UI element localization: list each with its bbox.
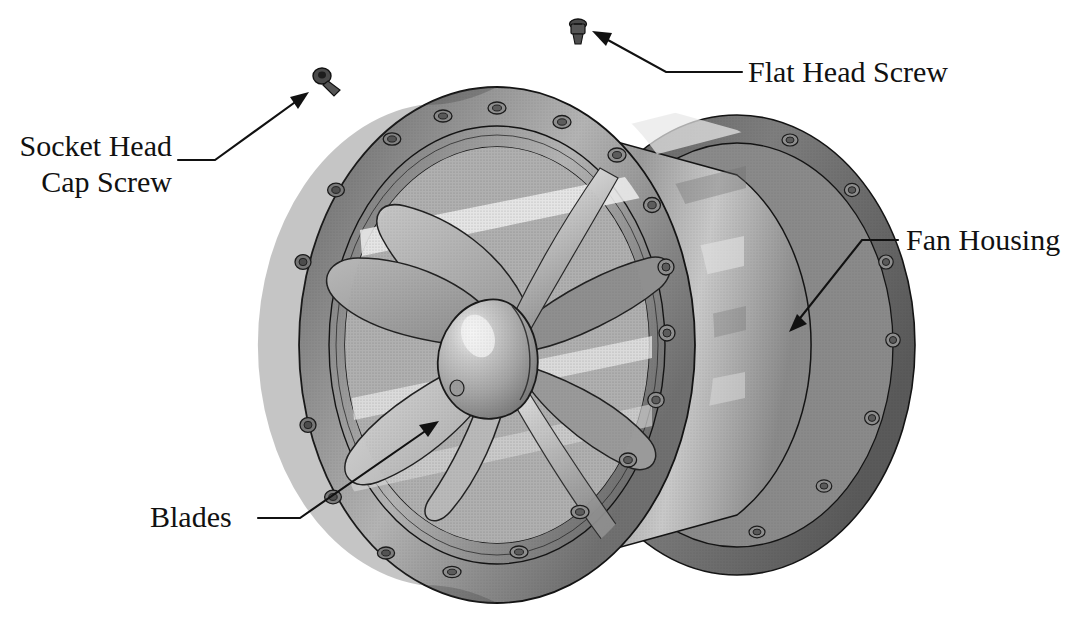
bolt-hole [844, 183, 859, 196]
bolt-hole [648, 392, 664, 407]
bolt-hole [488, 102, 506, 114]
bolt-hole [443, 566, 461, 577]
callout-blades-line-1: Blades [150, 500, 232, 534]
flat-head-screw-body [571, 24, 585, 34]
bolt-hole [295, 255, 311, 270]
bolt-hole [608, 148, 626, 162]
arrowhead-socket-head-cap-screw [290, 92, 309, 109]
bolt-hole [658, 259, 674, 275]
bolt-hole [377, 547, 394, 559]
bolt-hole [571, 505, 589, 518]
socket-head-cap-screw-hex-socket [318, 72, 326, 79]
fan-assembly-illustration [0, 0, 1076, 644]
bolt-hole [434, 110, 452, 122]
callout-socket-head-cap-screw: Socket Head Cap Screw [0, 128, 172, 200]
callout-flat-head-screw: Flat Head Screw [748, 55, 948, 89]
callout-flat-head-screw-line-1: Flat Head Screw [748, 55, 948, 89]
bolt-hole [865, 411, 880, 425]
arrowhead-flat-head-screw [592, 31, 612, 46]
leader-flat-head-screw [597, 34, 742, 72]
bolt-hole [328, 183, 345, 197]
bolt-hole [383, 133, 401, 145]
callout-fan-housing-line-1: Fan Housing [906, 223, 1060, 257]
callout-fan-housing: Fan Housing [906, 223, 1060, 257]
socket-head-cap-screw-part [313, 68, 340, 96]
bolt-hole [300, 418, 316, 433]
leader-socket-head-cap-screw [178, 95, 305, 160]
illustration-canvas: Flat Head Screw Socket Head Cap Screw Fa… [0, 0, 1076, 644]
bolt-hole [879, 255, 893, 269]
callout-socket-head-cap-screw-line-1: Socket Head [0, 128, 172, 164]
bolt-hole [510, 546, 528, 558]
callout-socket-head-cap-screw-line-2: Cap Screw [0, 164, 172, 200]
bolt-hole [886, 333, 900, 347]
callout-blades: Blades [150, 500, 232, 534]
socket-head-cap-screw-shank [323, 81, 340, 96]
flat-head-screw-part [570, 19, 587, 44]
bolt-hole [659, 325, 675, 341]
bolt-hole [644, 198, 661, 213]
bolt-hole [749, 526, 765, 538]
bolt-hole [553, 116, 571, 129]
flat-head-screw-shank [573, 34, 583, 44]
bolt-hole [619, 453, 636, 467]
bolt-hole [782, 134, 798, 146]
bolt-hole [816, 480, 832, 492]
